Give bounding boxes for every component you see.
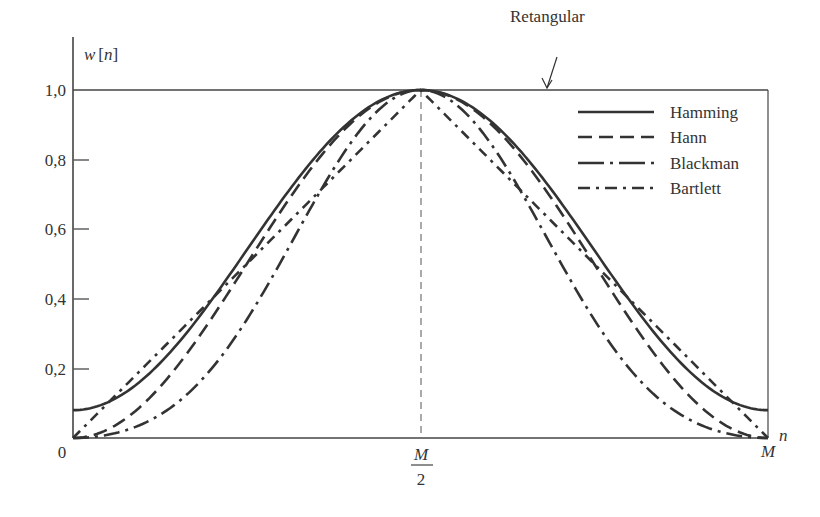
y-ticks: [73, 160, 89, 369]
svg-text:w[n]: w[n]: [84, 45, 118, 64]
window-functions-chart: 1,0 0,8 0,6 0,4 0,2 0 w[n] M 2 M n Retan…: [0, 0, 820, 517]
y-tick-label-0.6: 0,6: [45, 220, 66, 239]
origin-label: 0: [58, 443, 67, 462]
x-tick-label-mid-denominator: 2: [417, 470, 426, 489]
y-tick-label-0.4: 0,4: [45, 290, 67, 309]
y-label-n: n: [104, 45, 113, 64]
y-tick-labels: 1,0 0,8 0,6 0,4 0,2 0: [45, 81, 67, 462]
x-tick-label-end: M: [760, 442, 776, 461]
y-tick-label-0.2: 0,2: [45, 360, 66, 379]
legend-label: Hann: [670, 128, 707, 147]
rectangular-annotation-label: Retangular: [510, 7, 585, 26]
y-tick-label-0.8: 0,8: [45, 151, 66, 170]
y-label-bracket-close: ]: [113, 45, 119, 64]
legend-label: Blackman: [670, 154, 739, 173]
annotation-arrow-icon: [542, 57, 557, 88]
y-axis-label: w[n]: [84, 45, 118, 64]
y-label-w: w: [84, 45, 96, 64]
legend: Hamming Hann Blackman Bartlett: [578, 103, 739, 198]
y-tick-label-1.0: 1,0: [45, 81, 66, 100]
legend-item-hamming: Hamming: [578, 103, 738, 122]
legend-label: Hamming: [670, 103, 738, 122]
legend-item-hann: Hann: [578, 128, 707, 147]
x-tick-label-mid-numerator: M: [413, 445, 429, 464]
legend-item-blackman: Blackman: [578, 154, 739, 173]
x-axis-label: n: [779, 426, 788, 445]
legend-item-bartlett: Bartlett: [578, 179, 721, 198]
legend-label: Bartlett: [670, 179, 721, 198]
